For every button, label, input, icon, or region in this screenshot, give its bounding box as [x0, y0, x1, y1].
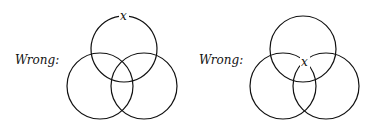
right-top-circle: [270, 16, 336, 82]
right-x-marker: x: [301, 55, 308, 69]
left-lower-right-circle: [111, 53, 177, 119]
left-venn-diagram: [67, 16, 177, 119]
left-lower-left-circle: [67, 53, 133, 119]
left-x-marker: x: [120, 9, 127, 23]
left-top-circle: [91, 16, 157, 82]
venn-diagrams: x x: [0, 0, 375, 131]
